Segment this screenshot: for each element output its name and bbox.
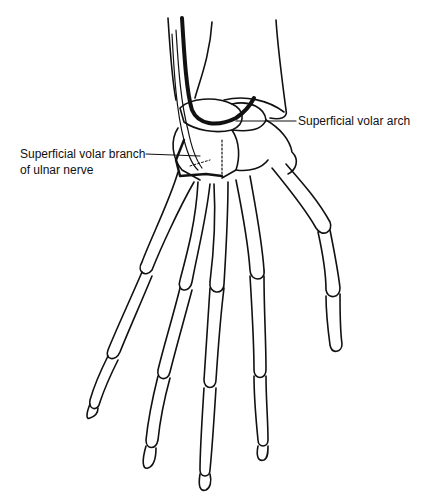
hand-anatomy-diagram: Superficial volar arch Superficial volar… [0, 0, 431, 497]
hand-skeleton-drawing [0, 0, 431, 497]
metacarpal-bones [140, 164, 331, 292]
superficial-volar-arch-vessel [172, 18, 254, 170]
nerve-leader-line [146, 154, 200, 156]
label-of-ulnar-nerve: of ulnar nerve [20, 163, 93, 178]
thumb-phalanges [318, 230, 342, 351]
label-superficial-volar-branch: Superficial volar branch [20, 147, 145, 162]
label-superficial-volar-arch: Superficial volar arch [298, 114, 410, 129]
finger-phalanges [87, 272, 268, 490]
